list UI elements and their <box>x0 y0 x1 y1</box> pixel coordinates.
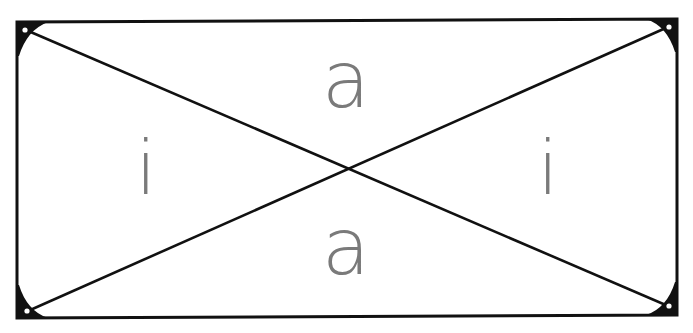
region-top-label: a <box>322 41 370 119</box>
corner-dot-bottom-left <box>24 308 29 313</box>
corner-dot-bottom-right <box>666 303 671 308</box>
region-left-label: i <box>136 131 157 205</box>
region-right-label: i <box>538 131 559 205</box>
region-bottom-label: a <box>322 208 370 286</box>
corner-dot-top-left <box>22 27 27 32</box>
corner-dot-top-right <box>666 24 671 29</box>
